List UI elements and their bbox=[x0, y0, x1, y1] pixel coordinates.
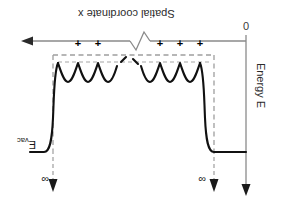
potential-wells-right-group bbox=[141, 63, 200, 82]
y-axis bbox=[242, 35, 251, 196]
potential-wells-left-group bbox=[58, 63, 117, 82]
vacuum-level-subscript: vac bbox=[17, 136, 29, 145]
ion-core-plus: + bbox=[95, 37, 101, 49]
vacuum-level-label: Evac bbox=[17, 136, 36, 150]
idealized-square-well bbox=[53, 55, 214, 150]
y-axis-label: Energy E bbox=[255, 63, 266, 108]
x-axis bbox=[21, 32, 246, 50]
x-axis-arrowhead bbox=[21, 37, 33, 46]
left-boundary-arrowhead bbox=[49, 179, 58, 192]
right-infinity-label: ∞ bbox=[198, 174, 206, 185]
left-boundary-marker bbox=[49, 150, 58, 192]
potential-energy-diagram: + + + + + Spatial coordinate x Energy E … bbox=[0, 0, 285, 203]
ion-core-plus: + bbox=[177, 37, 183, 49]
axis-break-symbol bbox=[130, 32, 150, 50]
vacuum-level-symbol: E bbox=[29, 139, 36, 151]
y-axis-arrowhead bbox=[242, 184, 251, 196]
ion-core-plus: + bbox=[197, 37, 203, 49]
x-axis-label: Spatial coordinate x bbox=[78, 8, 175, 19]
ion-core-plus: + bbox=[75, 37, 81, 49]
potential-curve-right-wall bbox=[200, 63, 246, 152]
origin-label: 0 bbox=[243, 21, 249, 32]
right-boundary-marker bbox=[210, 150, 219, 192]
left-infinity-label: ∞ bbox=[41, 174, 49, 185]
ion-core-plus: + bbox=[157, 37, 163, 49]
potential-curve-break-left bbox=[121, 57, 126, 62]
right-boundary-arrowhead bbox=[210, 179, 219, 192]
